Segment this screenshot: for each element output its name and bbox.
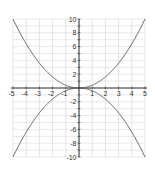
x-tick-label: 1 <box>90 90 94 97</box>
x-tick-label: -5 <box>8 90 14 97</box>
x-tick-label: -2 <box>48 90 54 97</box>
chart-svg: -5-4-3-2-112345 108642-2-4-6-8-10 <box>0 0 155 172</box>
x-tick-label: 3 <box>117 90 121 97</box>
x-tick-label: -3 <box>35 90 41 97</box>
x-tick-labels: -5-4-3-2-112345 <box>8 90 147 97</box>
y-tick-label: -10 <box>66 154 76 161</box>
y-tick-label: 10 <box>69 16 77 23</box>
y-tick-label: 2 <box>73 71 77 78</box>
y-tick-label: 8 <box>73 29 77 36</box>
y-tick-label: -8 <box>70 140 76 147</box>
x-tick-label: 4 <box>130 90 134 97</box>
y-tick-label: -2 <box>70 98 76 105</box>
y-tick-label: -6 <box>70 126 76 133</box>
y-tick-label: 6 <box>73 43 77 50</box>
y-tick-label: -4 <box>70 112 76 119</box>
y-tick-label: 4 <box>73 57 77 64</box>
x-tick-label: 2 <box>103 90 107 97</box>
x-tick-label: -1 <box>61 90 67 97</box>
x-tick-label: 5 <box>143 90 147 97</box>
x-tick-label: -4 <box>22 90 28 97</box>
